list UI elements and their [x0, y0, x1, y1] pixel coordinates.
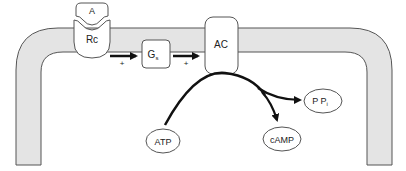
- sign-gs-ac: +: [184, 59, 189, 68]
- agonist-node: A: [76, 3, 108, 25]
- atp-node: ATP: [146, 129, 180, 153]
- ppi-label: P P: [312, 96, 326, 106]
- agonist-label: A: [89, 6, 95, 16]
- reaction-curve: [165, 73, 265, 125]
- receptor-label: Rc: [86, 34, 98, 45]
- camp-node: cAMP: [263, 127, 301, 151]
- adenylyl-cyclase-node: AC: [205, 17, 238, 74]
- ppi-node: P Pi: [304, 89, 342, 113]
- sign-rc-gs: +: [120, 59, 125, 68]
- gs-subscript: s: [155, 55, 158, 61]
- receptor-node: Rc: [74, 20, 110, 58]
- g-protein-node: Gs: [142, 40, 170, 68]
- ppi-subscript: i: [327, 101, 328, 107]
- camp-label: cAMP: [270, 135, 294, 145]
- atp-label: ATP: [155, 137, 172, 147]
- diagram-canvas: A Rc + Gs + AC ATP cAMP P Pi: [0, 0, 406, 171]
- svg-text:P Pi: P Pi: [312, 96, 328, 107]
- ac-label: AC: [214, 39, 228, 50]
